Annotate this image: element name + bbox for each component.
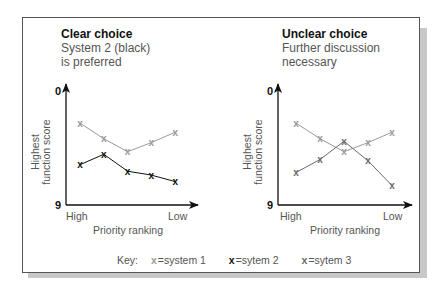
key-item-system-2: x=sytem 2 [229, 254, 289, 266]
svg-text:function score: function score [252, 119, 264, 185]
x-marker-icon: x [341, 146, 347, 157]
left-series: xxxxxxxxxx [77, 118, 178, 188]
x-marker-icon: x [389, 127, 395, 138]
x-marker-icon: x [149, 137, 155, 148]
x-tick-low: Low [383, 210, 403, 222]
x-marker-icon: x [293, 118, 299, 129]
x-marker-icon: x [389, 180, 395, 191]
x-marker-icon: x [125, 146, 131, 157]
x-marker-icon: x [293, 167, 299, 178]
key-item-system-3: x=sytem 3 [302, 254, 362, 266]
x-marker-icon: x [341, 136, 347, 147]
x-marker-icon: x [101, 133, 107, 144]
y-tick-bottom: 9 [55, 199, 61, 211]
x-tick-high: High [280, 210, 302, 222]
x-marker-icon: x [101, 149, 107, 160]
x-tick-low: Low [168, 210, 188, 222]
x-marker-icon: x [229, 254, 235, 266]
x-marker-icon: x [172, 127, 178, 138]
svg-text:function score: function score [40, 119, 52, 185]
right-series: xxxxxxxxxx [293, 118, 395, 191]
x-axis-title: Priority ranking [310, 224, 380, 236]
x-axis-title: Priority ranking [93, 224, 163, 236]
key-label: Key: [117, 254, 138, 266]
charts-svg: 0 9 High Low Priority ranking Highest fu… [0, 0, 446, 293]
key-item-system-1: x=system 1 [151, 254, 216, 266]
y-axis-title: Highest function score [241, 119, 264, 185]
y-tick-top: 0 [267, 85, 273, 97]
x-marker-icon: x [149, 170, 155, 181]
x-marker-icon: x [125, 166, 131, 177]
x-marker-icon: x [302, 254, 308, 266]
x-tick-high: High [66, 210, 88, 222]
x-marker-icon: x [151, 254, 157, 266]
y-axis-title: Highest function score [29, 119, 52, 185]
x-marker-icon: x [77, 159, 83, 170]
y-tick-top: 0 [55, 85, 61, 97]
chart-left: 0 9 High Low Priority ranking Highest fu… [29, 84, 198, 236]
chart-right: 0 9 High Low Priority ranking Highest fu… [241, 84, 412, 236]
x-marker-icon: x [172, 176, 178, 187]
x-marker-icon: x [77, 118, 83, 129]
x-marker-icon: x [365, 155, 371, 166]
x-marker-icon: x [365, 137, 371, 148]
x-marker-icon: x [317, 133, 323, 144]
x-marker-icon: x [317, 154, 323, 165]
legend-key: Key: x=system 1 x=sytem 2 x=sytem 3 [117, 254, 371, 266]
y-tick-bottom: 9 [267, 199, 273, 211]
